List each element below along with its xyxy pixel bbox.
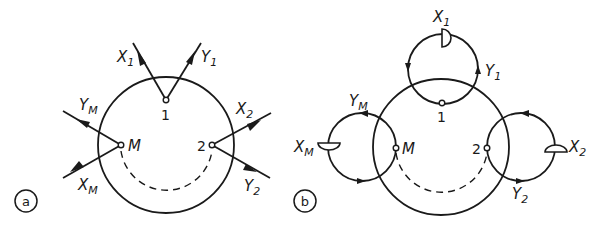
loop-2-b [487, 113, 555, 181]
node-label-2-b: 2 [472, 141, 481, 157]
node-2-a [209, 142, 215, 148]
arrow-ym-a [76, 119, 90, 128]
label-x2-b: X2 [568, 138, 586, 159]
label-y2-a: Y2 [244, 177, 260, 198]
arrow-loopm-bottom-b [357, 178, 366, 184]
arrow-y2-a [243, 164, 257, 172]
arrow-y1-a [186, 51, 195, 65]
node-label-1-b: 1 [437, 109, 446, 125]
source-x2-b [545, 145, 567, 152]
arrow-loop1-right-b [475, 65, 481, 74]
label-ym-a: YM [79, 96, 98, 117]
label-x2-a: X2 [235, 100, 253, 121]
source-x1-b [442, 29, 451, 47]
node-2-b [484, 145, 490, 151]
input-line-xm-a [63, 145, 121, 178]
label-xm-a: XM [77, 176, 98, 197]
node-label-m-b: M [402, 140, 415, 158]
node-label-m-a: M [128, 137, 141, 155]
source-xm-b [318, 143, 340, 150]
arrow-loop1-left-b [405, 63, 411, 72]
node-label-1-a: 1 [161, 107, 170, 123]
label-y2-b: Y2 [512, 185, 528, 206]
panel-tag-a: a [22, 194, 30, 209]
output-line-y1-a [166, 43, 201, 100]
diagram-a: 1 M 2 X1 Y1 YM XM X2 Y2 a [15, 43, 271, 213]
label-x1-b: X1 [432, 8, 450, 29]
panel-tag-b: b [301, 194, 309, 209]
dashed-path-b [396, 153, 487, 192]
label-xm-b: XM [293, 138, 314, 159]
arrow-loop2-bottom-b [516, 178, 525, 184]
dashed-path-a [121, 151, 212, 190]
node-label-2-a: 2 [197, 138, 206, 154]
figure-canvas: 1 M 2 X1 Y1 YM XM X2 Y2 a [0, 0, 599, 228]
output-line-y2-a [212, 145, 270, 178]
diagram-b: 1 M 2 X1 Y1 YM XM X2 Y2 b [293, 8, 586, 215]
label-ym-b: YM [349, 92, 368, 113]
arrow-loop2-top-b [520, 110, 529, 117]
label-x1-a: X1 [116, 48, 134, 69]
node-m-b [393, 145, 399, 151]
label-y1-b: Y1 [485, 62, 501, 83]
label-y1-a: Y1 [201, 48, 217, 69]
node-1-a [163, 97, 169, 103]
node-1-b [439, 100, 445, 106]
arrow-x1-a [137, 50, 146, 66]
node-m-a [118, 142, 124, 148]
